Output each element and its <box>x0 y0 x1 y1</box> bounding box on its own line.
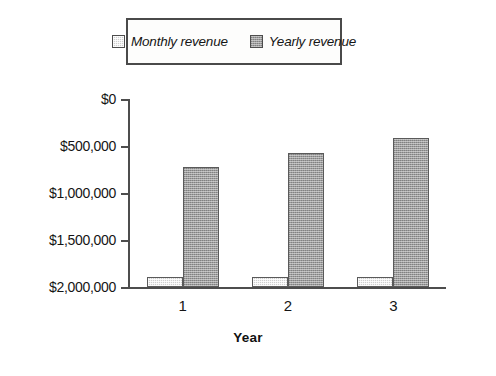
bar-yearly-year-3 <box>393 138 429 287</box>
y-axis-tick-label: $1,000,000 <box>49 185 116 201</box>
x-axis-title: Year <box>0 330 496 345</box>
legend-label-monthly: Monthly revenue <box>131 34 228 49</box>
x-axis-line <box>128 287 446 289</box>
plot-area: $2,000,000$1,500,000$1,000,000$500,000$0 <box>128 99 446 288</box>
legend-item-yearly-revenue: Yearly revenue <box>250 34 356 49</box>
bar-monthly-year-2 <box>252 277 288 287</box>
bar-chart: Monthly revenue Yearly revenue $2,000,00… <box>0 0 496 376</box>
legend-item-monthly-revenue: Monthly revenue <box>112 34 228 49</box>
y-axis-tick-label: $1,500,000 <box>49 232 116 248</box>
y-axis-tick-mark <box>121 287 129 289</box>
y-axis-tick-label: $0 <box>101 91 116 107</box>
y-axis-tick-mark <box>121 240 129 242</box>
y-axis-tick-mark <box>121 146 129 148</box>
legend-swatch-yearly <box>250 35 263 48</box>
y-axis-tick-mark <box>121 99 129 101</box>
bar-group <box>130 99 235 287</box>
bar-yearly-year-1 <box>183 167 219 287</box>
y-axis-tick-label: $2,000,000 <box>49 279 116 295</box>
legend-swatch-monthly <box>112 35 125 48</box>
bar-monthly-year-1 <box>147 277 183 287</box>
x-axis-label-2: 2 <box>284 297 292 314</box>
bar-group <box>235 99 340 287</box>
bar-group <box>341 99 446 287</box>
chart-legend: Monthly revenue Yearly revenue <box>126 18 342 65</box>
legend-label-yearly: Yearly revenue <box>269 34 356 49</box>
y-axis-tick-mark <box>121 193 129 195</box>
x-axis-label-3: 3 <box>389 297 397 314</box>
bar-series-layer <box>130 99 446 287</box>
y-axis-tick-label: $500,000 <box>60 138 116 154</box>
x-axis-label-1: 1 <box>178 297 186 314</box>
bar-monthly-year-3 <box>357 277 393 287</box>
bar-yearly-year-2 <box>288 153 324 287</box>
